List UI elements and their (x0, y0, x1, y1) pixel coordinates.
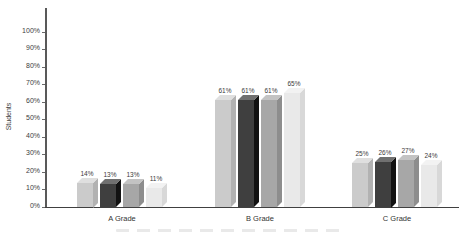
bar-front-face (421, 165, 437, 207)
y-tick-label: 0% (0, 202, 40, 210)
bar-side-face (437, 160, 442, 207)
y-tick-mark (42, 102, 45, 103)
bar-series-3-b-grade (261, 95, 282, 207)
y-tick-label: 10% (0, 184, 40, 192)
data-label: 61% (256, 87, 286, 94)
data-label: 11% (141, 175, 171, 182)
bar-series-3-a-grade (123, 179, 144, 207)
y-axis (45, 8, 47, 208)
bar-side-face (277, 95, 282, 207)
y-tick-mark (42, 154, 45, 155)
bar-series-2-c-grade (375, 157, 396, 208)
bar-series-1-b-grade (215, 95, 236, 207)
y-tick-label: 80% (0, 62, 40, 70)
bar-front-face (261, 100, 277, 207)
bar-front-face (146, 188, 162, 207)
y-tick-mark (42, 84, 45, 85)
y-tick-mark (42, 172, 45, 173)
y-tick-label: 100% (0, 27, 40, 35)
bar-series-4-a-grade (146, 183, 167, 207)
bar-side-face (231, 95, 236, 207)
bar-front-face (100, 184, 116, 207)
bar-series-1-c-grade (352, 158, 373, 207)
bar-series-1-a-grade (77, 178, 98, 208)
bar-side-face (254, 95, 259, 207)
bar-front-face (352, 163, 368, 207)
bar-series-2-a-grade (100, 179, 121, 207)
bar-front-face (398, 160, 414, 207)
bar-side-face (368, 158, 373, 207)
bar-side-face (391, 157, 396, 208)
cropped-caption-remnant (116, 229, 344, 232)
y-tick-label: 20% (0, 167, 40, 175)
bar-side-face (300, 88, 305, 207)
category-label: A Grade (87, 214, 157, 223)
bar-series-3-c-grade (398, 155, 419, 207)
y-tick-mark (42, 207, 45, 208)
bar-front-face (215, 100, 231, 207)
y-tick-label: 50% (0, 114, 40, 122)
y-tick-mark (42, 32, 45, 33)
category-label: C Grade (362, 214, 432, 223)
y-tick-mark (42, 67, 45, 68)
y-tick-label: 60% (0, 97, 40, 105)
bar-front-face (375, 162, 391, 208)
data-label: 24% (416, 152, 446, 159)
bar-series-2-b-grade (238, 95, 259, 207)
bar-front-face (123, 184, 139, 207)
bar-series-4-c-grade (421, 160, 442, 207)
category-label: B Grade (225, 214, 295, 223)
y-tick-label: 40% (0, 132, 40, 140)
y-tick-mark (42, 49, 45, 50)
bar-side-face (414, 155, 419, 207)
chart-area: Students 0%10%20%30%40%50%60%70%80%90%10… (0, 0, 468, 237)
bar-front-face (238, 100, 254, 207)
data-label: 65% (279, 80, 309, 87)
y-tick-mark (42, 137, 45, 138)
y-tick-label: 30% (0, 149, 40, 157)
y-tick-label: 70% (0, 79, 40, 87)
y-tick-mark (42, 189, 45, 190)
bar-series-4-b-grade (284, 88, 305, 207)
bar-front-face (284, 93, 300, 207)
bar-front-face (77, 183, 93, 208)
y-tick-mark (42, 119, 45, 120)
y-tick-label: 90% (0, 44, 40, 52)
